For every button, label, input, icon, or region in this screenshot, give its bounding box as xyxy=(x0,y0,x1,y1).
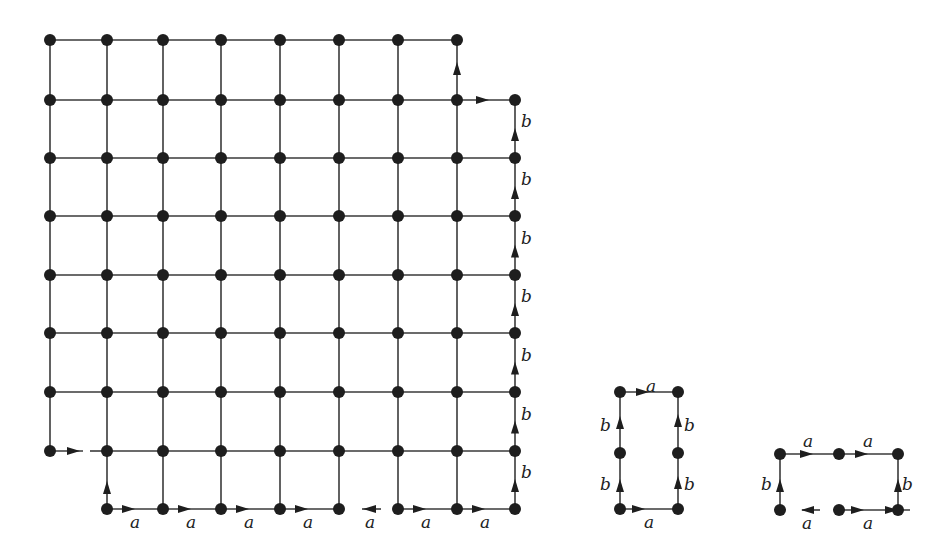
vertex xyxy=(274,152,286,164)
vertex xyxy=(157,210,169,222)
edge-label-a: a xyxy=(365,512,375,532)
arrow-up-icon xyxy=(511,128,519,141)
arrow-up-icon xyxy=(511,421,519,434)
main-grid-labels: aaaaaaabbbbbbb xyxy=(130,111,532,532)
vertex xyxy=(509,327,521,339)
vertex xyxy=(215,94,227,106)
vertex xyxy=(101,152,113,164)
edge-label-b: b xyxy=(684,415,695,435)
vertex xyxy=(392,503,404,515)
vertex xyxy=(509,152,521,164)
arrow-up-icon xyxy=(511,479,519,492)
vertex xyxy=(333,210,345,222)
edge-label-b: b xyxy=(521,169,532,189)
edge-label-b: b xyxy=(521,462,532,482)
vertex xyxy=(833,504,845,516)
edge-label-a: a xyxy=(244,512,254,532)
arrow-up-icon xyxy=(674,414,682,427)
vertex xyxy=(101,386,113,398)
vertex xyxy=(451,445,463,457)
vertex xyxy=(101,34,113,46)
arrow-up-icon xyxy=(511,362,519,375)
vertex xyxy=(157,327,169,339)
vertex xyxy=(333,445,345,457)
vertex xyxy=(44,152,56,164)
vertex xyxy=(274,503,286,515)
vertex xyxy=(509,269,521,281)
vertex xyxy=(157,503,169,515)
vertex xyxy=(274,327,286,339)
edge-label-a: a xyxy=(421,512,431,532)
vertex xyxy=(157,152,169,164)
vertex xyxy=(509,503,521,515)
vertex xyxy=(509,445,521,457)
vertex xyxy=(333,94,345,106)
vertex xyxy=(44,34,56,46)
vertex xyxy=(392,34,404,46)
main-grid-arrows xyxy=(67,62,519,513)
vertex xyxy=(614,447,626,459)
vertex xyxy=(101,269,113,281)
vertex xyxy=(333,386,345,398)
vertex xyxy=(215,386,227,398)
vertex xyxy=(509,210,521,222)
vertex xyxy=(44,210,56,222)
vertex xyxy=(392,327,404,339)
vertex xyxy=(451,503,463,515)
vertex xyxy=(774,448,786,460)
vertex xyxy=(509,94,521,106)
vertex xyxy=(333,34,345,46)
vertex xyxy=(614,386,626,398)
arrow-up-icon xyxy=(511,303,519,316)
vertex xyxy=(274,210,286,222)
vertex xyxy=(101,327,113,339)
edge-label-a: a xyxy=(303,512,313,532)
vertex xyxy=(614,503,626,515)
vertex xyxy=(157,94,169,106)
vertex xyxy=(451,386,463,398)
arrow-up-icon xyxy=(511,186,519,199)
vertex xyxy=(333,152,345,164)
arrow-right-icon xyxy=(476,96,489,104)
arrow-up-icon xyxy=(894,479,902,492)
edge-label-a: a xyxy=(646,376,656,396)
small-figure-closed-rectangle: aabbbb xyxy=(600,376,695,532)
edge-label-a: a xyxy=(130,512,140,532)
edge-label-a: a xyxy=(863,431,873,451)
edge-label-a: a xyxy=(802,513,812,533)
vertex xyxy=(157,445,169,457)
edge-label-a: a xyxy=(803,431,813,451)
vertex xyxy=(451,327,463,339)
edge-label-b: b xyxy=(521,111,532,131)
vertex xyxy=(392,94,404,106)
vertex xyxy=(274,269,286,281)
vertex xyxy=(509,386,521,398)
vertex xyxy=(451,34,463,46)
vertex xyxy=(44,94,56,106)
vertex xyxy=(774,504,786,516)
vertex xyxy=(672,386,684,398)
vertex xyxy=(215,327,227,339)
vertex xyxy=(274,445,286,457)
vertex xyxy=(101,503,113,515)
vertex xyxy=(157,269,169,281)
vertex xyxy=(392,386,404,398)
edge-label-b: b xyxy=(521,286,532,306)
vertex xyxy=(451,269,463,281)
vertex xyxy=(392,152,404,164)
vertex xyxy=(392,445,404,457)
vertex xyxy=(215,445,227,457)
edge-label-b: b xyxy=(521,345,532,365)
vertex xyxy=(392,210,404,222)
edge-label-b: b xyxy=(902,474,913,494)
vertex xyxy=(44,269,56,281)
vertex xyxy=(215,152,227,164)
edge-label-b: b xyxy=(761,474,772,494)
vertex xyxy=(101,445,113,457)
vertex xyxy=(274,94,286,106)
vertex xyxy=(451,152,463,164)
arrow-up-icon xyxy=(511,245,519,258)
lattice-path-diagram: aaaaaaabbbbbbb aabbbb aabbaa xyxy=(0,0,949,551)
vertex xyxy=(215,34,227,46)
edge-label-b: b xyxy=(521,228,532,248)
